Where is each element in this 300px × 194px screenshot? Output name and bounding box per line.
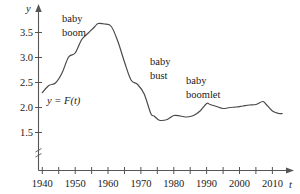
chart-svg: 3.5 3.0 2.5 2.0 1.5 1940 19 xyxy=(0,0,300,194)
x-tick-label-1960: 1960 xyxy=(98,178,119,189)
x-tick-labels: 1940 1950 1960 1970 1980 1990 2000 2010 xyxy=(32,178,283,189)
x-axis-name: t xyxy=(289,179,293,190)
y-tick-label-1-5: 1.5 xyxy=(20,127,33,138)
annotation-baby-boom: baby boom xyxy=(62,13,86,38)
x-tick-label-1970: 1970 xyxy=(130,178,151,189)
y-tick-labels: 3.5 3.0 2.5 2.0 1.5 xyxy=(20,27,33,138)
baby-boomlet-line-1: baby xyxy=(186,75,207,86)
x-tick-label-2010: 2010 xyxy=(262,178,283,189)
function-label: y = F(t) xyxy=(46,95,81,107)
y-tick-label-3-0: 3.0 xyxy=(20,52,33,63)
baby-bust-line-2: bust xyxy=(150,70,168,81)
x-axis-arrowhead xyxy=(286,167,294,173)
baby-bust-line-1: baby xyxy=(150,56,171,67)
y-axis-arrowhead xyxy=(35,4,41,12)
y-axis-name: y xyxy=(25,3,31,14)
y-tick-label-2-0: 2.0 xyxy=(20,102,33,113)
baby-boom-line-1: baby xyxy=(62,13,83,24)
baby-boom-line-2: boom xyxy=(62,27,86,38)
annotation-baby-bust: baby bust xyxy=(150,56,171,81)
x-tick-label-2000: 2000 xyxy=(229,178,250,189)
x-tick-label-1950: 1950 xyxy=(65,178,86,189)
y-tick-label-3-5: 3.5 xyxy=(20,27,33,38)
x-tick-label-1990: 1990 xyxy=(196,178,217,189)
y-tick-label-2-5: 2.5 xyxy=(20,77,33,88)
baby-boomlet-line-2: boomlet xyxy=(186,89,220,100)
annotation-baby-boomlet: baby boomlet xyxy=(186,75,220,100)
x-tick-label-1940: 1940 xyxy=(32,178,53,189)
x-tick-label-1980: 1980 xyxy=(163,178,184,189)
fertility-rate-chart: 3.5 3.0 2.5 2.0 1.5 1940 19 xyxy=(0,0,300,194)
